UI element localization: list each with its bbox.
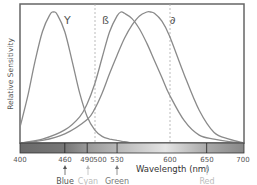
gamma-label: Y [63, 14, 71, 27]
y-axis-label: Relative Sensitivity [6, 38, 15, 110]
arrow-up-icon [115, 165, 119, 175]
delta-label: ∂ [170, 14, 176, 27]
tick-650: 650 [200, 156, 213, 164]
green-label: Green [105, 177, 129, 185]
arrow-up-icon [63, 165, 67, 175]
beta-label: ß [102, 14, 109, 27]
cyan-label: Cyan [78, 177, 98, 185]
tick-400: 400 [13, 156, 26, 164]
red-label: Red [199, 177, 214, 185]
sensitivity-chart: Y ß ∂ Relative Sensitivity 400 460 490 5… [0, 0, 257, 185]
spectrum-bar [20, 143, 244, 153]
tick-490: 490 [80, 156, 93, 164]
tick-460: 460 [58, 156, 71, 164]
blue-label: Blue [56, 177, 74, 185]
arrow-up-icon [86, 165, 90, 175]
x-axis-label: Wavelength (nm) [136, 164, 209, 174]
tick-600: 600 [163, 156, 176, 164]
tick-500: 500 [93, 156, 106, 164]
tick-700: 700 [236, 156, 249, 164]
tick-530: 530 [110, 156, 123, 164]
